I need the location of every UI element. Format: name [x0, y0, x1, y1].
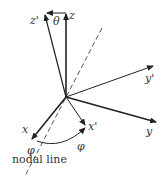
y-label: y [145, 125, 153, 138]
phi-right-label: φ [77, 140, 85, 153]
theta-label: θ [53, 15, 60, 28]
y-prime-axis [66, 66, 153, 97]
nodal-line-label: nodal line [12, 153, 67, 166]
x-axis [32, 97, 66, 139]
x-prime-label: x' [88, 120, 97, 133]
y-axis [66, 97, 156, 122]
y-prime-label: y' [144, 72, 154, 85]
diagram-canvas: z z' θ y' y x x' φ φ nodal line [0, 0, 168, 184]
z-prime-label: z' [29, 14, 39, 27]
z-label: z [68, 9, 75, 22]
euler-angle-diagram: z z' θ y' y x x' φ φ nodal line [0, 0, 168, 184]
x-label: x [22, 123, 29, 136]
